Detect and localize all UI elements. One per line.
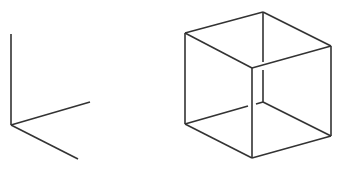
cube-edge-top-back-right [263,12,331,46]
cube-edge-top-left-back [185,12,263,33]
cube-edge-top-front-right [252,46,331,68]
cube-edge-bottom-left-back-a [185,106,248,124]
cube-edge-bottom-left-back-b [256,102,263,104]
axis-down-right [11,125,78,159]
cube-edge-bottom-left-front [185,124,252,158]
cube-edge-top-left-front [185,33,252,68]
diagram-canvas [0,0,344,169]
coordinate-axes [11,34,90,159]
wireframe-cube [185,12,331,158]
cube-edge-bottom-front-right [252,136,331,158]
cube-edge-bottom-back-right [263,102,331,136]
axis-right [11,102,90,125]
